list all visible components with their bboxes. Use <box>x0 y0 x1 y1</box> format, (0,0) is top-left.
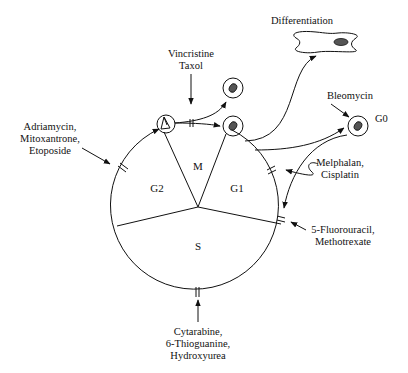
svg-text:Mitoxantrone,: Mitoxantrone, <box>20 133 80 144</box>
drug-bleomycin: Bleomycin <box>327 90 374 117</box>
svg-text:Etoposide: Etoposide <box>29 145 71 156</box>
daughter-cell-g1 <box>223 116 243 136</box>
phase-label-g1: G1 <box>230 182 243 194</box>
differentiated-cell <box>294 31 358 52</box>
svg-text:Melphalan,: Melphalan, <box>316 157 364 168</box>
block-mark-g2 <box>118 163 128 172</box>
state-label-differentiation: Differentiation <box>271 15 334 26</box>
svg-text:6-Thioguanine,: 6-Thioguanine, <box>166 338 230 349</box>
drug-fluorouracil-methotrexate: 5-Fluorouracil, Methotrexate <box>291 222 375 247</box>
drug-vincristine-taxol: Vincristine Taxol <box>168 48 214 104</box>
arrow-to-differentiation <box>245 56 316 141</box>
block-mark-s-entry <box>277 216 285 222</box>
svg-text:Adriamycin,: Adriamycin, <box>24 121 77 132</box>
phase-label-m: M <box>193 160 203 172</box>
drug-melphalan-cisplatin: Melphalan, Cisplatin <box>286 157 364 180</box>
mitotic-cell <box>157 115 175 133</box>
drug-cytarabine-thioguanine-hydroxyurea: Cytarabine, 6-Thioguanine, Hydroxyurea <box>166 300 230 361</box>
svg-text:Cisplatin: Cisplatin <box>321 169 360 180</box>
daughter-cell-upper <box>223 78 243 98</box>
arrow-to-daughter-upper <box>175 102 226 123</box>
arrow-to-daughter-g1 <box>175 123 220 126</box>
svg-text:Hydroxyurea: Hydroxyurea <box>170 350 226 361</box>
block-mark-g1 <box>267 166 276 174</box>
svg-text:5-Fluorouracil,: 5-Fluorouracil, <box>311 224 374 235</box>
phase-dividers <box>117 132 281 226</box>
drug-adriamycin-mitoxantrone-etoposide: Adriamycin, Mitoxantrone, Etoposide <box>20 121 110 164</box>
phase-label-s: S <box>195 240 201 252</box>
state-label-g0: G0 <box>375 113 388 124</box>
block-mark-s <box>196 287 199 297</box>
svg-text:Vincristine: Vincristine <box>168 48 214 59</box>
svg-text:Taxol: Taxol <box>179 60 203 71</box>
phase-label-g2: G2 <box>150 182 163 194</box>
svg-text:Methotrexate: Methotrexate <box>315 236 371 247</box>
cell-cycle-diagram: M G1 S G2 Vincristine Taxol Differentiat… <box>0 0 408 373</box>
svg-text:Cytarabine,: Cytarabine, <box>174 326 223 337</box>
g0-cell <box>348 116 368 136</box>
cycle-circle <box>110 129 278 289</box>
svg-text:Bleomycin: Bleomycin <box>327 90 374 101</box>
